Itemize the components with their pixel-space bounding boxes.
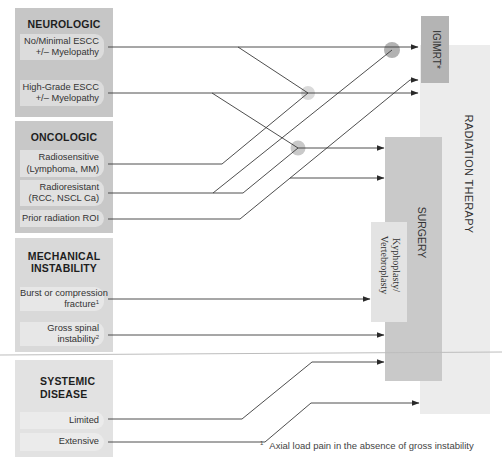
section-separator [0, 352, 502, 355]
footnote: 1Axial load pain in the absence of gross… [260, 440, 474, 451]
connector-limited-to-surgery [108, 362, 384, 419]
connector-extensive-to-radiation-therapy [108, 403, 419, 442]
connector-layer [0, 0, 502, 466]
connector-high-grade-escc-to-surgery-junction [212, 93, 298, 148]
connector-no-minimal-escc-to-rt-junction [238, 47, 308, 93]
footnote-marker: 1 [260, 440, 263, 446]
footnote-text: Axial load pain in the absence of gross … [269, 440, 473, 451]
connector-radiosensitive-to-rt-junction [108, 93, 308, 164]
line-layer [108, 47, 419, 442]
connector-radioresistant-to-igimrt-junction [213, 50, 392, 193]
junction-layer [291, 42, 401, 156]
connector-prior-radiation-to-igimrt [108, 80, 418, 219]
connector-radioresistant-to-surgery-junction [108, 148, 298, 193]
